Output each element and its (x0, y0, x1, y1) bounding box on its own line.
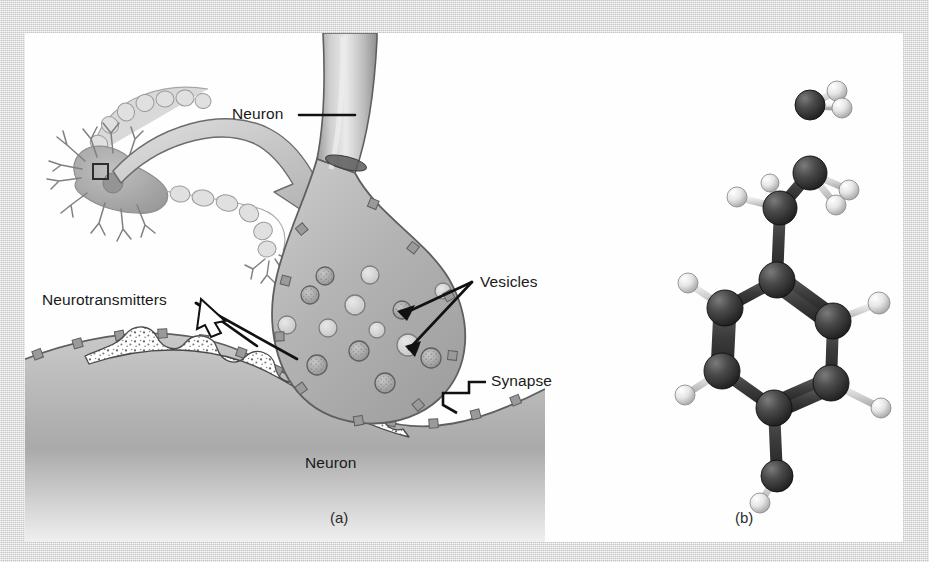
panel-a-synapse-diagram: Neuron Neurotransmitters Vesicles Synaps… (25, 33, 545, 542)
atom-h (826, 195, 846, 215)
vesicle (319, 319, 337, 337)
vesicle-contents (309, 357, 326, 374)
caption-b: (b) (735, 509, 753, 526)
label-neuron-bottom: Neuron (305, 454, 356, 472)
atom-c (756, 390, 792, 426)
molecule-ball-and-stick (545, 33, 903, 542)
label-vesicles: Vesicles (480, 273, 538, 291)
label-neuron-top: Neuron (232, 105, 283, 123)
label-neurotransmitters: Neurotransmitters (42, 291, 167, 309)
panel-b-molecule-model: (b) (545, 33, 903, 542)
vesicle-contents (318, 269, 333, 284)
atom-c (813, 365, 849, 401)
myelin-segments-lower (169, 185, 277, 258)
atom-c (793, 156, 827, 190)
vesicle-contents (423, 350, 440, 367)
vesicle-contents (377, 375, 394, 392)
vesicle-contents (351, 343, 368, 360)
atom-h (868, 292, 890, 314)
atom-o (761, 460, 793, 492)
vesicle (361, 266, 379, 284)
vesicle (278, 316, 296, 334)
atom-h (871, 398, 891, 418)
atom-c (763, 191, 797, 225)
atom-h (727, 187, 747, 207)
label-synapse: Synapse (491, 372, 552, 390)
vesicle (369, 322, 385, 338)
atom-h (832, 98, 852, 118)
synapse-illustration (25, 33, 545, 542)
vesicle-contents (303, 288, 318, 303)
presynaptic-neuron (272, 33, 465, 426)
caption-a: (a) (330, 509, 348, 526)
figure-panel: Neuron Neurotransmitters Vesicles Synaps… (25, 33, 903, 542)
atom-c (707, 290, 743, 326)
atom-h (678, 273, 698, 293)
atom-c (704, 353, 740, 389)
atom-c (759, 262, 795, 298)
atom-c (815, 303, 851, 339)
atom-h (761, 174, 779, 192)
atom-h (675, 385, 695, 405)
atom-n (795, 90, 825, 120)
vesicle (345, 295, 365, 315)
neurotransmitters-arrowhead (197, 299, 225, 337)
